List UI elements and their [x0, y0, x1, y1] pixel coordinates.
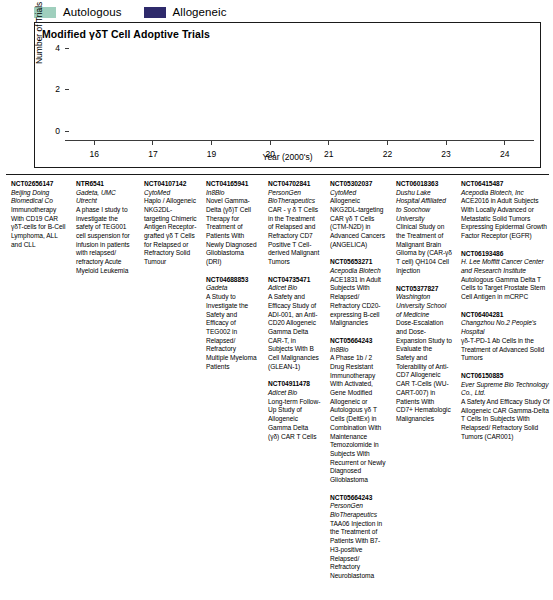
trial-column-21: NCT04702841PersonGen BioTherapeuticsCAR … — [263, 180, 325, 450]
trial-sponsor: Washington University School of Medicine — [396, 293, 452, 319]
trial-sponsor: In8Bio — [330, 346, 387, 355]
trial-description: Haplo / Allogeneic NKG2DL-targeting Chim… — [144, 197, 197, 267]
trial-description: Novel Gamma-Delta (γδ)T Cell Therapy for… — [206, 197, 259, 267]
trial-description: A Safety and Efficacy Study of ADI-001, … — [268, 293, 321, 371]
figure-root: Autologous Allogeneic Modified γδT Cell … — [0, 0, 553, 600]
x-tick-mark — [211, 141, 212, 145]
trial-nct-id: NCT04165941 — [206, 180, 259, 189]
trial-nct-id: NCT04911478 — [268, 380, 321, 389]
bar-group-17: 17 — [124, 45, 183, 141]
trial-description: Long-term Follow-Up Study of Allogeneic … — [268, 398, 321, 442]
trial-entry: NCT04165941In8BioNovel Gamma-Delta (γδ)T… — [206, 180, 259, 267]
trial-entry: NCT06415487Acepodia Biotech, IncACE2016 … — [461, 180, 550, 241]
trial-entry: NCT06150885Ever Supreme Bio Technology C… — [461, 372, 550, 441]
trial-sponsor: Dushu Lake Hospital Affiliated to Soocho… — [396, 189, 452, 224]
trial-entry: NCT05664243In8BioA Phase 1b / 2 Drug Res… — [330, 337, 387, 485]
chart-title: Modified γδT Cell Adoptive Trials — [42, 28, 210, 40]
trial-sponsor: H. Lee Moffitt Cancer Center and Researc… — [461, 258, 550, 275]
trial-sponsor: Gadeta — [206, 284, 259, 293]
trial-sponsor: Changzhou No.2 People's Hospital — [461, 319, 550, 336]
bar-group-23: 23 — [417, 45, 476, 141]
x-axis-label: Year (2000's) — [35, 152, 540, 162]
trial-description: Clinical Study on the Treatment of Malig… — [396, 223, 452, 275]
trial-description: TAA06 Injection in the Treatment of Pati… — [330, 520, 387, 581]
trial-entry: NCT05302037CytoMedAllogeneic NKG2DL-targ… — [330, 180, 387, 249]
trial-sponsor: Adicet Bio — [268, 284, 321, 293]
trial-entry: NTR6541Gadeta, UMC UtrechtA phase I stud… — [76, 180, 135, 276]
trial-description: A phase I study to investigate the safet… — [76, 206, 135, 276]
trial-nct-id: NCT05302037 — [330, 180, 387, 189]
x-tick-mark — [504, 141, 505, 145]
trial-nct-id: NCT06193486 — [461, 250, 550, 259]
trial-sponsor: PersonGen BioTherapeutics — [330, 502, 387, 519]
trial-entry: NCT05653271Acepodia BiotechACE1831 in Ad… — [330, 258, 387, 327]
trial-nct-id: NCT04688853 — [206, 276, 259, 285]
trial-entry: NCT06193486H. Lee Moffitt Cancer Center … — [461, 250, 550, 302]
trial-nct-id: NCT05664243 — [330, 337, 387, 346]
trial-description: ACE1831 in Adult Subjects With Relapsed/… — [330, 276, 387, 328]
bar-chart: Modified γδT Cell Adoptive Trials Number… — [34, 22, 541, 168]
trial-description: A Safety And Efficacy Study Of Allogenei… — [461, 398, 550, 442]
trial-nct-id: NCT05377827 — [396, 285, 452, 294]
bar-group-22: 22 — [358, 45, 417, 141]
trial-nct-id: NCT04107142 — [144, 180, 197, 189]
trial-sponsor: Ever Supreme Bio Technology Co., Ltd. — [461, 381, 550, 398]
trial-description: Immunotherapy With CD19 CAR γδT-cells fo… — [11, 206, 67, 250]
x-tick-mark — [387, 141, 388, 145]
legend-label-autologous: Autologous — [63, 6, 122, 18]
trial-nct-id: NCT06018363 — [396, 180, 452, 189]
trial-sponsor: CytoMed — [330, 189, 387, 198]
trial-column-20: NCT04165941In8BioNovel Gamma-Delta (γδ)T… — [201, 180, 263, 380]
trial-entry: NCT04735471Adicet BioA Safety and Effica… — [268, 276, 321, 372]
x-tick-mark — [446, 141, 447, 145]
trial-entry: NCT02656147Beijing Doing Biomedical CoIm… — [11, 180, 67, 249]
x-tick-mark — [94, 141, 95, 145]
trial-entry: NCT05664243PersonGen BioTherapeuticsTAA0… — [330, 494, 387, 581]
bar-group-20: 20 — [241, 45, 300, 141]
trial-nct-id: NCT06404281 — [461, 311, 550, 320]
trial-entry: NCT04688853GadetaA Study to Investigate … — [206, 276, 259, 372]
legend-label-allogeneic: Allogeneic — [173, 6, 227, 18]
trial-nct-id: NCT04735471 — [268, 276, 321, 285]
bar-group-19: 19 — [182, 45, 241, 141]
trial-column-17: NTR6541Gadeta, UMC UtrechtA phase I stud… — [71, 180, 139, 285]
trial-description: A Phase 1b / 2 Drug Resistant Immunother… — [330, 354, 387, 485]
trial-sponsor: Adicet Bio — [268, 389, 321, 398]
trial-description: ACE2016 in Adult Subjects With Locally A… — [461, 197, 550, 241]
legend-swatch-allogeneic — [144, 7, 166, 18]
trial-column-23: NCT06018363Dushu Lake Hospital Affiliate… — [391, 180, 456, 433]
bar-group-24: 24 — [475, 45, 534, 141]
trial-description: Allogeneic NKG2DL-targeting CAR γδ T Cel… — [330, 197, 387, 249]
trial-entry: NCT04702841PersonGen BioTherapeuticsCAR … — [268, 180, 321, 267]
trial-sponsor: Beijing Doing Biomedical Co — [11, 189, 67, 206]
trial-nct-id: NCT02656147 — [11, 180, 67, 189]
trial-nct-id: NCT06415487 — [461, 180, 550, 189]
y-tick-4: 4 — [55, 43, 65, 53]
trial-nct-id: NCT05664243 — [330, 494, 387, 503]
trial-nct-id: NCT06150885 — [461, 372, 550, 381]
trial-entry: NCT04107142CytoMedHaplo / Allogeneic NKG… — [144, 180, 197, 267]
trial-description: Autologous Gamma Delta T Cells to Target… — [461, 276, 550, 302]
trial-column-24: NCT06415487Acepodia Biotech, IncACE2016 … — [456, 180, 553, 450]
trial-description: CAR - γ δ T Cells in the Treatment of Re… — [268, 206, 321, 267]
legend-item-autologous: Autologous — [34, 6, 122, 18]
x-tick-mark — [270, 141, 271, 145]
bar-group-16: 16 — [65, 45, 124, 141]
bar-series-group: 1617192021222324 — [65, 45, 534, 141]
y-tick-0: 0 — [55, 126, 65, 136]
y-tick-2: 2 — [55, 84, 65, 94]
bar-group-21: 21 — [300, 45, 359, 141]
trial-nct-id: NCT05653271 — [330, 258, 387, 267]
trial-sponsor: Acepodia Biotech, Inc — [461, 189, 550, 198]
x-tick-mark — [328, 141, 329, 145]
trial-sponsor: Gadeta, UMC Utrecht — [76, 189, 135, 206]
trial-nct-id: NTR6541 — [76, 180, 135, 189]
x-tick-mark — [152, 141, 153, 145]
trial-entry: NCT05377827Washington University School … — [396, 285, 452, 424]
trial-sponsor: Acepodia Biotech — [330, 267, 387, 276]
trial-column-19: NCT04107142CytoMedHaplo / Allogeneic NKG… — [139, 180, 201, 276]
chart-legend: Autologous Allogeneic — [0, 0, 553, 22]
trial-entry: NCT06018363Dushu Lake Hospital Affiliate… — [396, 180, 452, 276]
plot-area: 024 1617192021222324 — [65, 45, 534, 141]
trial-sponsor: CytoMed — [144, 189, 197, 198]
